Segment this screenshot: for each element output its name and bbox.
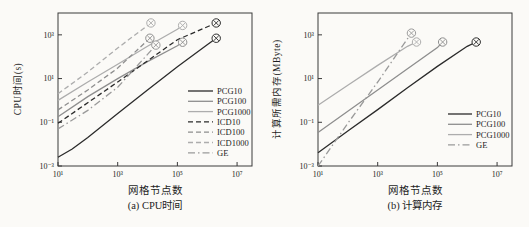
plot-a-y-axis-label: CPU时间(s) bbox=[10, 63, 24, 116]
y-tick-label: 10⁻¹ bbox=[299, 118, 314, 127]
series-PCG10-end-marker bbox=[472, 38, 480, 46]
y-tick-label: 10⁻³ bbox=[39, 162, 54, 171]
legend-entry-GE: GE bbox=[448, 140, 487, 150]
legend-entry-PCG100: PCG100 bbox=[188, 96, 246, 106]
series-PCG100-line bbox=[318, 42, 443, 133]
panel-a: 10¹10³10⁵10⁷10⁻³10⁻¹10¹10³PCG10PCG100PCG… bbox=[0, 0, 265, 227]
legend-label: PCG100 bbox=[217, 96, 246, 106]
legend-label: ICD10 bbox=[217, 117, 240, 127]
series-ICD100-end-marker bbox=[146, 34, 154, 42]
y-tick-label: 10³ bbox=[44, 31, 55, 40]
series-GE-end-marker bbox=[407, 29, 415, 37]
series-ICD1000-line bbox=[58, 23, 151, 94]
x-tick-label: 10⁷ bbox=[232, 170, 243, 179]
y-tick-label: 10⁻³ bbox=[299, 162, 314, 171]
x-tick-label: 10¹ bbox=[53, 170, 64, 179]
legend: PCG10PCG100PCG1000GE bbox=[448, 109, 510, 150]
series-PCG100-end-marker bbox=[178, 38, 186, 46]
series-PCG1000-end-marker bbox=[178, 21, 186, 29]
series-GE-line bbox=[58, 45, 156, 129]
legend-entry-ICD10: ICD10 bbox=[188, 117, 240, 127]
x-tick-label: 10³ bbox=[112, 170, 123, 179]
series-PCG10-end-marker bbox=[212, 34, 220, 42]
series-ICD10-end-marker bbox=[212, 19, 220, 27]
series-PCG10-line bbox=[318, 42, 476, 153]
series-ICD10-line bbox=[58, 23, 216, 123]
plot-b-caption: (b) 计算内存 bbox=[318, 197, 512, 212]
legend-label: PCG10 bbox=[217, 86, 242, 96]
legend-label: PCG1000 bbox=[476, 130, 510, 140]
legend-entry-PCG10: PCG10 bbox=[448, 109, 501, 119]
figure-cpu-memory-comparison: 10¹10³10⁵10⁷10⁻³10⁻¹10¹10³PCG10PCG100PCG… bbox=[0, 0, 529, 227]
plot-b-canvas: 10¹10³10⁵10⁷10⁻³10⁻¹10¹10³PCG10PCG100PCG… bbox=[265, 0, 529, 182]
legend-entry-ICD100: ICD100 bbox=[188, 127, 244, 137]
x-tick-label: 10¹ bbox=[313, 170, 324, 179]
legend-label: PCG10 bbox=[476, 109, 501, 119]
x-tick-label: 10³ bbox=[372, 170, 383, 179]
legend-entry-GE: GE bbox=[188, 148, 228, 158]
plot-b-x-axis-label: 网格节点数 bbox=[318, 182, 512, 197]
x-tick-label: 10⁵ bbox=[172, 170, 183, 179]
legend-entry-PCG1000: PCG1000 bbox=[448, 130, 510, 140]
y-tick-label: 10¹ bbox=[44, 74, 55, 83]
plot-a-canvas: 10¹10³10⁵10⁷10⁻³10⁻¹10¹10³PCG10PCG100PCG… bbox=[0, 0, 265, 182]
legend-entry-PCG100: PCG100 bbox=[448, 119, 505, 129]
legend-label: GE bbox=[476, 140, 487, 150]
y-tick-label: 10³ bbox=[304, 31, 315, 40]
y-tick-label: 10¹ bbox=[304, 74, 315, 83]
legend: PCG10PCG100PCG1000ICD10ICD100ICD1000GE bbox=[188, 86, 251, 158]
legend-entry-PCG10: PCG10 bbox=[188, 86, 242, 96]
series-ICD1000-end-marker bbox=[147, 19, 155, 27]
series-PCG1000-line bbox=[58, 25, 183, 100]
series-PCG1000-end-marker bbox=[412, 38, 420, 46]
legend-label: GE bbox=[217, 148, 228, 158]
legend-entry-PCG1000: PCG1000 bbox=[188, 107, 251, 117]
legend-label: PCG1000 bbox=[217, 107, 251, 117]
plot-a-caption: (a) CPU时间 bbox=[58, 197, 252, 212]
legend-label: ICD100 bbox=[217, 127, 244, 137]
legend-label: PCG100 bbox=[476, 119, 505, 129]
series-GE-end-marker bbox=[152, 41, 160, 49]
legend-label: ICD1000 bbox=[217, 138, 249, 148]
legend-entry-ICD1000: ICD1000 bbox=[188, 138, 249, 148]
x-tick-label: 10⁵ bbox=[432, 170, 443, 179]
series-PCG100-end-marker bbox=[438, 38, 446, 46]
panel-b: 10¹10³10⁵10⁷10⁻³10⁻¹10¹10³PCG10PCG100PCG… bbox=[265, 0, 529, 227]
x-tick-label: 10⁷ bbox=[492, 170, 503, 179]
series-PCG10-line bbox=[58, 38, 216, 157]
y-tick-label: 10⁻¹ bbox=[39, 118, 54, 127]
plot-a-x-axis-label: 网格节点数 bbox=[58, 182, 252, 197]
plot-b-y-axis-label: 计算所需内存(MByte) bbox=[269, 39, 283, 138]
